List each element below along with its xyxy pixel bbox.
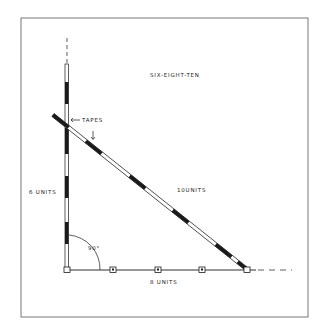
vertical-tape xyxy=(65,64,69,271)
vertical-side-label: 6 UNITS xyxy=(29,189,56,195)
diagram-title: SIX-EIGHT-TEN xyxy=(150,72,200,78)
six-eight-ten-diagram: SIX-EIGHT-TEN TAPES 6 UNITS 10UNITS 90° … xyxy=(0,0,326,334)
stake-marker xyxy=(244,267,250,273)
tapes-arrow-down-icon xyxy=(91,131,95,140)
hypotenuse-label: 10UNITS xyxy=(177,187,206,193)
horizontal-side-label: 8 UNITS xyxy=(150,279,177,285)
hypotenuse-tape xyxy=(52,114,250,272)
stake-marker xyxy=(64,267,70,273)
tapes-label: TAPES xyxy=(81,117,103,123)
right-angle-arc xyxy=(69,235,100,270)
angle-label: 90° xyxy=(88,245,100,251)
tapes-arrow-left-icon xyxy=(71,118,80,122)
